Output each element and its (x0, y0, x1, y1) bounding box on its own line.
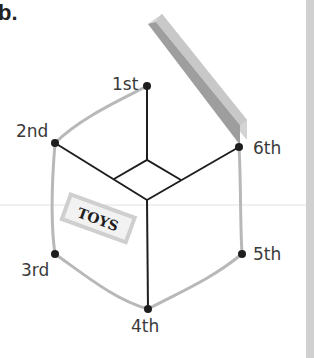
page-edge-strip (306, 0, 314, 358)
vertex-label-4th: 4th (131, 318, 159, 335)
vertex-label-5th: 5th (253, 246, 281, 263)
vertex-label-1st: 1st (112, 76, 138, 93)
vertex-label-6th: 6th (253, 140, 281, 157)
vertex-label-3rd: 3rd (21, 262, 49, 279)
box-lid (148, 14, 247, 145)
box-drawing: TOYS (0, 0, 314, 358)
toys-sign: TOYS (59, 192, 137, 245)
box-diagram: b. TOYS (0, 0, 314, 358)
vertex-label-2nd: 2nd (16, 123, 48, 140)
